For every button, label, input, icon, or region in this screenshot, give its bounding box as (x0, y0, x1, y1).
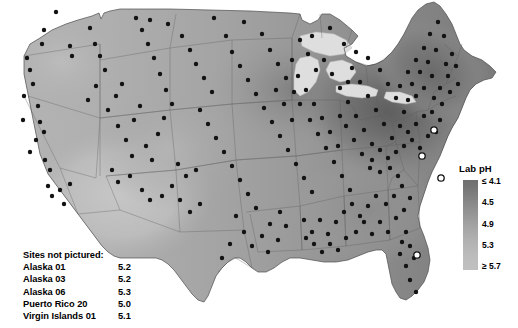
monitoring-site-dot[interactable] (222, 150, 226, 154)
monitoring-site-dot[interactable] (428, 32, 432, 36)
monitoring-site-dot[interactable] (398, 84, 402, 88)
monitoring-site-dot[interactable] (88, 26, 92, 30)
monitoring-site-dot[interactable] (284, 224, 288, 228)
monitoring-site-dot[interactable] (336, 144, 340, 148)
monitoring-site-dot[interactable] (344, 124, 348, 128)
monitoring-site-dot[interactable] (292, 90, 296, 94)
monitoring-site-dot[interactable] (176, 162, 180, 166)
monitoring-site-dot[interactable] (238, 178, 242, 182)
monitoring-site-dot[interactable] (188, 210, 192, 214)
monitoring-site-dot[interactable] (114, 94, 118, 98)
monitoring-site-dot[interactable] (144, 144, 148, 148)
monitoring-site-dot[interactable] (140, 28, 144, 32)
monitoring-site-dot[interactable] (228, 242, 232, 246)
monitoring-site-dot[interactable] (320, 116, 324, 120)
monitoring-site-dot[interactable] (128, 174, 132, 178)
monitoring-site-dot[interactable] (184, 174, 188, 178)
monitoring-site-dot[interactable] (224, 34, 228, 38)
monitoring-site-dot[interactable] (384, 202, 388, 206)
monitoring-site-dot[interactable] (284, 76, 288, 80)
monitoring-site-dot[interactable] (392, 194, 396, 198)
monitoring-site-dot[interactable] (188, 48, 192, 52)
monitoring-site-dot[interactable] (382, 122, 386, 126)
monitoring-site-dot[interactable] (352, 138, 356, 142)
open-circle-site[interactable] (419, 153, 425, 159)
monitoring-site-dot[interactable] (278, 210, 282, 214)
monitoring-site-dot[interactable] (398, 124, 402, 128)
monitoring-site-dot[interactable] (358, 80, 362, 84)
monitoring-site-dot[interactable] (38, 120, 42, 124)
monitoring-site-dot[interactable] (28, 150, 32, 154)
monitoring-site-dot[interactable] (360, 152, 364, 156)
monitoring-site-dot[interactable] (36, 104, 40, 108)
monitoring-site-dot[interactable] (268, 222, 272, 226)
monitoring-site-dot[interactable] (276, 62, 280, 66)
monitoring-site-dot[interactable] (34, 138, 38, 142)
monitoring-site-dot[interactable] (62, 202, 66, 206)
monitoring-site-dot[interactable] (446, 74, 450, 78)
monitoring-site-dot[interactable] (290, 58, 294, 62)
monitoring-site-dot[interactable] (354, 230, 358, 234)
monitoring-site-dot[interactable] (21, 118, 25, 122)
monitoring-site-dot[interactable] (282, 102, 286, 106)
monitoring-site-dot[interactable] (304, 88, 308, 92)
monitoring-site-dot[interactable] (138, 104, 142, 108)
monitoring-site-dot[interactable] (160, 194, 164, 198)
monitoring-site-dot[interactable] (406, 98, 410, 102)
monitoring-site-dot[interactable] (456, 82, 460, 86)
monitoring-site-dot[interactable] (68, 44, 72, 48)
monitoring-site-dot[interactable] (410, 138, 414, 142)
monitoring-site-dot[interactable] (436, 20, 440, 24)
monitoring-site-dot[interactable] (332, 160, 336, 164)
monitoring-site-dot[interactable] (354, 50, 358, 54)
monitoring-site-dot[interactable] (404, 230, 408, 234)
monitoring-site-dot[interactable] (450, 52, 454, 56)
monitoring-site-dot[interactable] (370, 158, 374, 162)
monitoring-site-dot[interactable] (386, 230, 390, 234)
monitoring-site-dot[interactable] (242, 20, 246, 24)
monitoring-site-dot[interactable] (170, 184, 174, 188)
monitoring-site-dot[interactable] (378, 148, 382, 152)
monitoring-site-dot[interactable] (302, 218, 306, 222)
monitoring-site-dot[interactable] (278, 134, 282, 138)
open-circle-site[interactable] (438, 175, 444, 181)
monitoring-site-dot[interactable] (414, 58, 418, 62)
monitoring-site-dot[interactable] (152, 56, 156, 60)
monitoring-site-dot[interactable] (25, 56, 29, 60)
monitoring-site-dot[interactable] (444, 62, 448, 66)
monitoring-site-dot[interactable] (328, 130, 332, 134)
monitoring-site-dot[interactable] (398, 252, 402, 256)
monitoring-site-dot[interactable] (386, 156, 390, 160)
monitoring-site-dot[interactable] (214, 136, 218, 140)
monitoring-site-dot[interactable] (302, 176, 306, 180)
monitoring-site-dot[interactable] (286, 148, 290, 152)
monitoring-site-dot[interactable] (158, 72, 162, 76)
monitoring-site-dot[interactable] (316, 132, 320, 136)
monitoring-site-dot[interactable] (406, 70, 410, 74)
monitoring-site-dot[interactable] (454, 64, 458, 68)
monitoring-site-dot[interactable] (338, 86, 342, 90)
monitoring-site-dot[interactable] (132, 118, 136, 122)
monitoring-site-dot[interactable] (276, 238, 280, 242)
monitoring-site-dot[interactable] (110, 168, 114, 172)
monitoring-site-dot[interactable] (42, 130, 46, 134)
monitoring-site-dot[interactable] (358, 214, 362, 218)
monitoring-site-dot[interactable] (298, 102, 302, 106)
monitoring-site-dot[interactable] (156, 132, 160, 136)
monitoring-site-dot[interactable] (238, 64, 242, 68)
monitoring-site-dot[interactable] (400, 184, 404, 188)
monitoring-site-dot[interactable] (408, 196, 412, 200)
monitoring-site-dot[interactable] (378, 220, 382, 224)
monitoring-site-dot[interactable] (350, 66, 354, 70)
monitoring-site-dot[interactable] (342, 210, 346, 214)
monitoring-site-dot[interactable] (366, 204, 370, 208)
monitoring-site-dot[interactable] (374, 194, 378, 198)
monitoring-site-dot[interactable] (408, 244, 412, 248)
monitoring-site-dot[interactable] (124, 138, 128, 142)
monitoring-site-dot[interactable] (390, 136, 394, 140)
monitoring-site-dot[interactable] (322, 58, 326, 62)
monitoring-site-dot[interactable] (336, 248, 340, 252)
monitoring-site-dot[interactable] (378, 170, 382, 174)
monitoring-site-dot[interactable] (170, 102, 174, 106)
monitoring-site-dot[interactable] (42, 28, 46, 32)
